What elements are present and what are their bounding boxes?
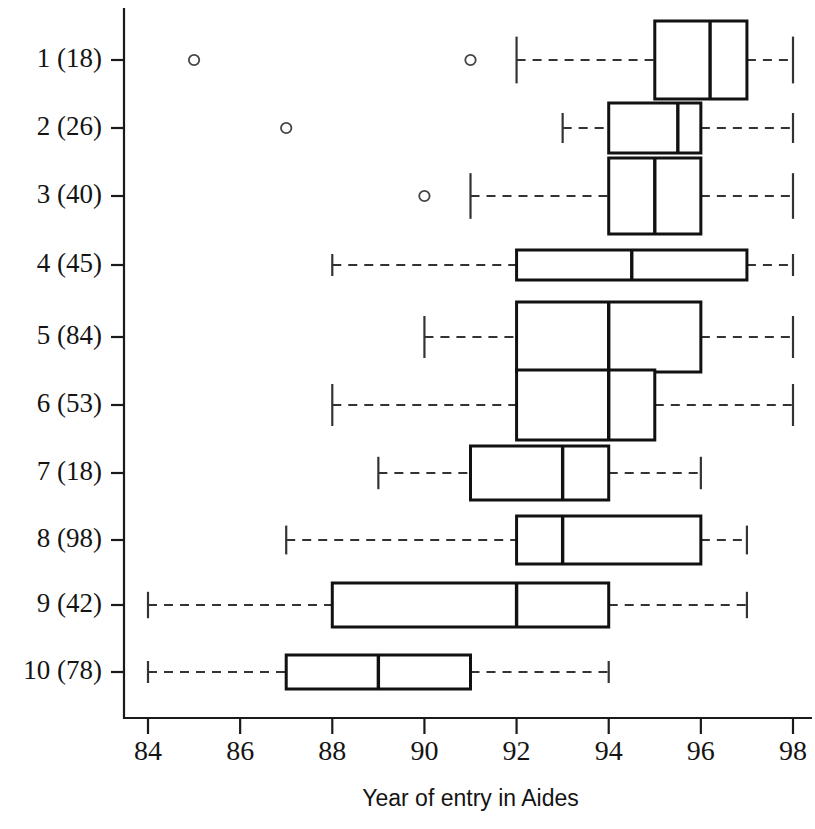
y-axis-label-5: 5 (84) (37, 320, 102, 350)
box-1 (655, 21, 747, 99)
x-tick-label-96: 96 (687, 735, 715, 766)
x-tick-label-94: 94 (595, 735, 623, 766)
boxplot-group-4 (332, 250, 793, 280)
y-axis-label-10: 10 (78) (23, 655, 102, 685)
box-8 (517, 516, 701, 564)
box-9 (332, 583, 608, 627)
y-axis-label-8: 8 (98) (37, 523, 102, 553)
outlier-2-1 (281, 123, 291, 133)
y-axis-label-1: 1 (18) (37, 43, 102, 73)
x-tick-label-92: 92 (503, 735, 531, 766)
box-7 (471, 446, 609, 500)
y-tick-group (111, 60, 124, 672)
box-2 (609, 103, 701, 153)
boxplot-group-10 (148, 655, 609, 689)
box-series (148, 21, 793, 689)
y-axis-label-4: 4 (45) (37, 248, 102, 278)
x-axis-title: Year of entry in Aides (362, 785, 579, 811)
x-tick-label-88: 88 (318, 735, 346, 766)
x-tick-label-86: 86 (226, 735, 254, 766)
boxplot-figure: 1 (18)2 (26)3 (40)4 (45)5 (84)6 (53)7 (1… (0, 0, 815, 829)
x-tick-group (148, 718, 793, 734)
box-6 (517, 370, 655, 440)
outlier-1-2 (465, 55, 475, 65)
x-tick-label-98: 98 (779, 735, 807, 766)
outlier-3-1 (419, 191, 429, 201)
y-axis-label-3: 3 (40) (37, 179, 102, 209)
outlier-1-1 (189, 55, 199, 65)
boxplot-group-3 (419, 158, 793, 234)
x-tick-label-90: 90 (410, 735, 438, 766)
boxplot-group-5 (424, 302, 793, 372)
y-axis-labels: 1 (18)2 (26)3 (40)4 (45)5 (84)6 (53)7 (1… (23, 43, 102, 685)
y-axis-label-9: 9 (42) (37, 588, 102, 618)
boxplot-canvas: 1 (18)2 (26)3 (40)4 (45)5 (84)6 (53)7 (1… (0, 0, 815, 829)
y-axis-label-7: 7 (18) (37, 456, 102, 486)
boxplot-group-7 (378, 446, 700, 500)
boxplot-group-9 (148, 583, 747, 627)
boxplot-group-1 (189, 21, 793, 99)
y-axis-label-6: 6 (53) (37, 388, 102, 418)
boxplot-group-6 (332, 370, 793, 440)
boxplot-group-8 (286, 516, 747, 564)
x-tick-labels: 8486889092949698 (134, 735, 807, 766)
x-tick-label-84: 84 (134, 735, 162, 766)
boxplot-group-2 (281, 103, 793, 153)
y-axis-label-2: 2 (26) (37, 111, 102, 141)
